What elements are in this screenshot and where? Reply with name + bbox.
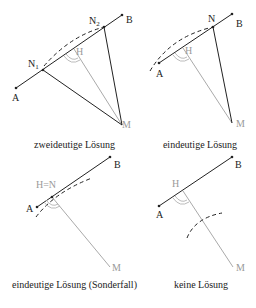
panel-two-solutions: A B M H N1 N2 zweideutige Lösung (12, 14, 133, 150)
label-m: M (122, 119, 131, 130)
panel-no-solution: A B M H keine Lösung (156, 156, 245, 290)
circle-arc (44, 27, 104, 66)
label-b: B (114, 159, 121, 170)
circle-arc (187, 213, 222, 238)
line-n1m (43, 70, 122, 125)
panel-unique-solution: A B M H N eindeutige Lösung (150, 13, 245, 150)
point-a (15, 87, 18, 90)
label-a: A (156, 209, 164, 220)
label-m: M (236, 118, 245, 129)
label-b: B (235, 159, 242, 170)
caption-unique-solution: eindeutige Lösung (163, 139, 237, 150)
label-h: H (76, 46, 83, 57)
point-b (109, 156, 112, 159)
label-n2: N2 (89, 15, 100, 28)
label-m: M (236, 262, 245, 273)
point-hn (51, 196, 54, 199)
point-a (36, 206, 39, 209)
label-b: B (126, 14, 133, 25)
label-n: N (208, 13, 215, 24)
perpendicular-hm (183, 191, 233, 267)
label-b: B (236, 18, 243, 29)
diagram-canvas: A B M H N1 N2 zweideutige Lösung A B M H… (0, 0, 256, 308)
perpendicular-hm (52, 197, 110, 267)
label-n1: N1 (28, 58, 39, 71)
point-b (231, 13, 234, 16)
caption-two-solutions: zweideutige Lösung (34, 139, 115, 150)
point-n2 (103, 26, 106, 29)
panel-special-case: A B M H=N eindeutige Lösung (Sonderfall) (12, 156, 137, 291)
label-m: M (112, 262, 121, 273)
point-b (231, 156, 234, 159)
line-ab (16, 15, 122, 88)
label-h: H (172, 178, 179, 189)
point-b (121, 14, 124, 17)
caption-special-case: eindeutige Lösung (Sonderfall) (12, 279, 137, 291)
label-a: A (156, 68, 164, 79)
label-h-equals-n: H=N (36, 179, 56, 190)
label-h: H (185, 45, 192, 56)
line-ab (159, 14, 232, 63)
point-n1 (42, 69, 45, 72)
point-a (158, 205, 161, 208)
caption-no-solution: keine Lösung (174, 279, 228, 290)
point-a (158, 62, 161, 65)
point-n (212, 26, 215, 29)
line-ab (159, 157, 232, 206)
label-a: A (12, 92, 20, 103)
label-a: A (26, 203, 34, 214)
